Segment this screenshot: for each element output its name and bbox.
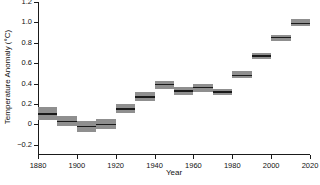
x-tick-label: 1880 [30,162,47,170]
x-tick: 1980 [232,155,233,159]
y-tick: 1.2 [34,2,38,3]
decade-mean-line [232,75,251,77]
x-tick: 1960 [193,155,194,159]
y-axis-line [38,2,39,155]
x-tick-label: 1900 [69,162,86,170]
y-tick: 0.2 [34,104,38,105]
y-tick: 0.6 [34,63,38,64]
decade-mean-line [291,23,310,25]
y-tick: 0 [34,124,38,125]
x-tick-label: 1960 [185,162,202,170]
x-axis-title: Year [166,168,182,177]
decade-mean-line [96,124,115,126]
y-tick: 1.0 [34,22,38,23]
y-tick: 0.8 [34,43,38,44]
decade-mean-line [77,126,96,128]
plot-area: −0.200.20.40.60.81.01.2 1880190019201940… [38,2,310,155]
y-tick-label: 0.8 [22,39,32,47]
x-tick: 2020 [310,155,311,159]
decade-mean-line [252,55,271,57]
y-axis-title: Temperature Anomaly (°C) [3,30,12,124]
y-tick-label: 1.2 [22,0,32,6]
decade-mean-line [116,108,135,110]
decade-mean-line [38,113,57,115]
y-tick-label: 1.0 [22,19,32,27]
decade-mean-line [57,121,76,123]
x-tick-label: 1920 [107,162,124,170]
y-tick-label: 0 [28,121,32,129]
y-tick-label: −0.2 [17,141,32,149]
x-tick: 1920 [116,155,117,159]
x-tick-label: 1980 [224,162,241,170]
decade-mean-line [174,90,193,92]
temperature-anomaly-chart: Temperature Anomaly (°C) Year −0.200.20.… [0,0,320,185]
x-axis-line [38,154,310,155]
x-tick-label: 2020 [302,162,319,170]
y-tick-label: 0.4 [22,80,32,88]
x-tick: 1900 [77,155,78,159]
y-tick: 0.4 [34,84,38,85]
x-tick: 2000 [271,155,272,159]
decade-mean-line [155,84,174,86]
y-tick-label: 0.6 [22,59,32,67]
y-tick: −0.2 [34,145,38,146]
y-tick-label: 0.2 [22,100,32,108]
x-tick: 1940 [155,155,156,159]
decade-mean-line [193,87,212,89]
decade-mean-line [135,96,154,98]
x-tick-label: 2000 [263,162,280,170]
decade-mean-line [271,37,290,39]
x-tick-label: 1940 [146,162,163,170]
x-tick: 1880 [38,155,39,159]
decade-mean-line [213,91,232,93]
